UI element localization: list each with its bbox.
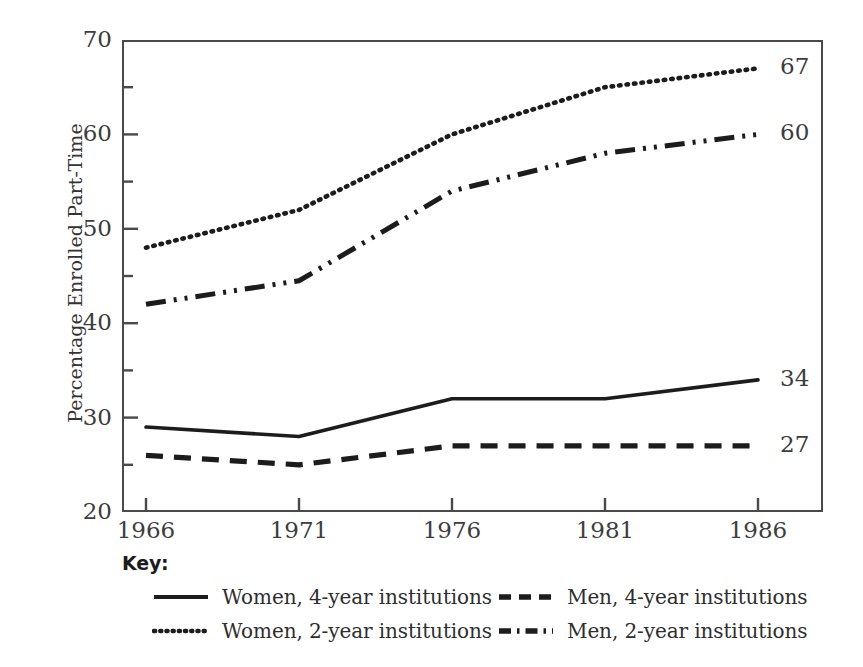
legend-items: Women, 4-year institutionsMen, 4-year in… (122, 585, 822, 643)
legend-line-swatch-solid-icon (152, 590, 210, 604)
end-label-women-4-year: 34 (780, 367, 809, 390)
legend-title: Key: (122, 552, 822, 574)
y-axis-tick-labels: 203040506070 (60, 0, 112, 667)
x-tick-label: 1976 (397, 519, 507, 542)
end-label-men-2-year: 60 (780, 121, 809, 144)
x-tick-label: 1966 (91, 519, 201, 542)
plot-lines (122, 40, 823, 512)
legend-item: Women, 4-year institutions (152, 585, 497, 609)
series-line-women-2-year (146, 68, 758, 247)
legend-item-label: Men, 2-year institutions (567, 619, 807, 643)
y-tick-label: 40 (64, 311, 112, 334)
x-tick-label: 1971 (244, 519, 354, 542)
end-label-men-4-year: 27 (780, 433, 809, 456)
y-tick-label: 60 (64, 122, 112, 145)
legend-item: Women, 2-year institutions (152, 619, 497, 643)
line-chart-figure: Percentage Enrolled Part-Time 2030405060… (0, 0, 863, 667)
y-tick-label: 50 (64, 217, 112, 240)
x-tick-label: 1981 (550, 519, 660, 542)
x-tick-label: 1986 (703, 519, 813, 542)
legend-line-swatch-dotted-icon (152, 624, 210, 638)
legend-line-swatch-dash-dot-icon (497, 624, 555, 638)
y-tick-label: 70 (64, 28, 112, 51)
series-line-women-4-year (146, 380, 758, 437)
y-tick-label: 30 (64, 406, 112, 429)
legend-item-label: Women, 4-year institutions (222, 585, 492, 609)
legend-line-swatch-dashed-icon (497, 590, 555, 604)
legend: Key: Women, 4-year institutionsMen, 4-ye… (122, 552, 822, 643)
end-label-women-2-year: 67 (780, 55, 809, 78)
series-line-men-4-year (146, 446, 758, 465)
legend-item-label: Men, 4-year institutions (567, 585, 807, 609)
legend-item-label: Women, 2-year institutions (222, 619, 492, 643)
legend-item: Men, 2-year institutions (497, 619, 822, 643)
legend-item: Men, 4-year institutions (497, 585, 822, 609)
series-line-men-2-year (146, 134, 758, 304)
